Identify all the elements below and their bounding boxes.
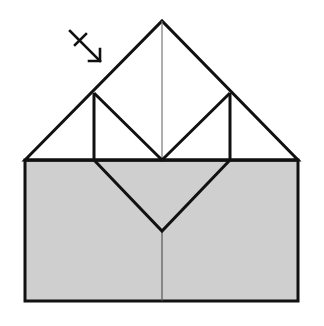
fold-arrow-icon — [70, 31, 100, 61]
origami-diagram — [0, 0, 324, 326]
